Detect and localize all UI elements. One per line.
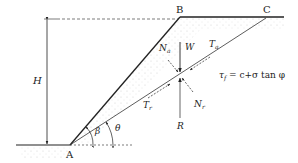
normal-resisting-label: Nr [193,99,206,110]
theta-label: θ [115,123,121,133]
weight-label: W [185,42,195,52]
beta-label: β [94,126,100,136]
shear-resisting-arrow [148,84,170,98]
shear-active-label: Ta [209,39,219,50]
resultant-label: R [176,121,184,131]
point-label-B: B [176,4,183,15]
height-label: H [32,75,42,86]
slope-face-AB [70,17,180,145]
point-label-C: C [263,4,271,15]
slope-diagram: B C A H W R Na Ta Tr Nr β θ τf = c+σ tan… [0,0,298,163]
soil-mass [20,17,284,158]
shear-active-arrow [190,57,210,70]
point-label-A: A [65,149,74,160]
normal-resisting-arrow [182,78,193,92]
shear-resisting-label: Tr [143,100,153,111]
shear-strength-equation: τf = c+σ tan φ [219,70,285,82]
